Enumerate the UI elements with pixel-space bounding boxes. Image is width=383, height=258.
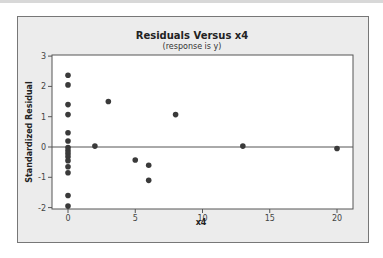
data-point bbox=[240, 143, 246, 149]
data-point bbox=[106, 99, 112, 105]
y-tick-label: 3 bbox=[41, 52, 46, 61]
plot-area bbox=[52, 55, 353, 209]
data-point bbox=[65, 102, 71, 108]
data-point bbox=[65, 130, 71, 136]
y-axis: -2-10123 bbox=[38, 52, 52, 213]
data-point bbox=[146, 162, 152, 168]
data-point bbox=[65, 82, 71, 88]
data-point bbox=[334, 146, 340, 152]
data-point bbox=[65, 164, 71, 170]
y-tick-label: -2 bbox=[38, 204, 46, 213]
data-point bbox=[65, 72, 71, 78]
residual-scatter-plot: Residuals Versus x4 (response is y) -2-1… bbox=[0, 0, 383, 258]
y-tick-label: 2 bbox=[41, 82, 46, 91]
y-tick-label: -1 bbox=[38, 173, 46, 182]
data-point bbox=[65, 170, 71, 176]
x-tick-label: 20 bbox=[332, 214, 342, 223]
data-point bbox=[173, 112, 179, 118]
data-point bbox=[65, 138, 71, 144]
x-axis-label: x4 bbox=[196, 218, 207, 227]
x-tick-label: 5 bbox=[133, 214, 138, 223]
data-point bbox=[92, 143, 98, 149]
x-tick-label: 0 bbox=[65, 214, 70, 223]
y-axis-label: Standardized Residual bbox=[25, 81, 34, 183]
data-point bbox=[65, 158, 71, 164]
data-point bbox=[65, 112, 71, 118]
chart-subtitle: (response is y) bbox=[163, 42, 222, 51]
y-tick-label: 1 bbox=[41, 113, 46, 122]
chart-title: Residuals Versus x4 bbox=[136, 30, 249, 41]
x-tick-label: 15 bbox=[265, 214, 275, 223]
data-point bbox=[132, 157, 138, 163]
y-tick-label: 0 bbox=[41, 143, 46, 152]
data-point bbox=[65, 203, 71, 209]
data-point bbox=[146, 178, 152, 184]
data-point bbox=[65, 193, 71, 199]
